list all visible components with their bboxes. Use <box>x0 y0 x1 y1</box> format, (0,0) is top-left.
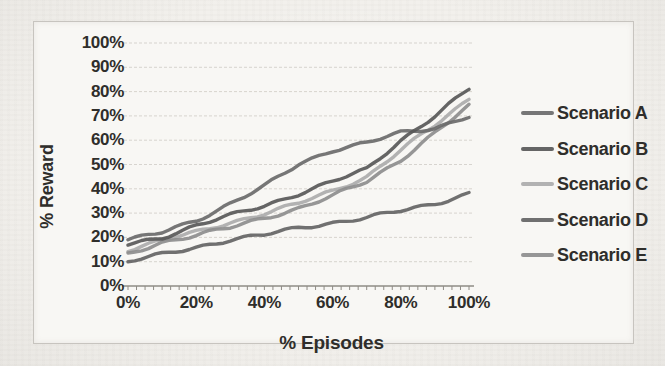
legend-entry-scenario-d: Scenario D <box>521 209 648 231</box>
x-tick-label-20%: 20% <box>161 293 231 313</box>
legend-entry-scenario-b: Scenario B <box>521 138 648 160</box>
x-tick-label-40%: 40% <box>229 293 299 313</box>
y-tick-label-80%: 80% <box>62 83 124 101</box>
series-line-scenario-b <box>128 89 469 245</box>
x-tick-label-60%: 60% <box>298 293 368 313</box>
legend-line-swatch-icon <box>521 111 554 115</box>
chart-frame: % Reward % Episodes 100%90%80%70%60%50%4… <box>33 21 634 344</box>
y-tick-label-100%: 100% <box>62 34 124 52</box>
legend-label: Scenario D <box>557 210 648 231</box>
x-tick-label-80%: 80% <box>366 293 436 313</box>
legend-entry-scenario-c: Scenario C <box>521 173 648 195</box>
y-tick-label-50%: 50% <box>62 156 124 174</box>
legend-entry-scenario-a: Scenario A <box>521 102 647 124</box>
y-tick-label-30%: 30% <box>62 204 124 222</box>
y-tick-label-70%: 70% <box>62 107 124 125</box>
legend-entry-scenario-e: Scenario E <box>521 244 647 266</box>
legend-line-swatch-icon <box>521 182 554 186</box>
y-tick-label-90%: 90% <box>62 58 124 76</box>
y-tick-label-20%: 20% <box>62 228 124 246</box>
y-axis-title: % Reward <box>37 132 58 242</box>
x-axis-title: % Episodes <box>264 332 399 354</box>
legend-label: Scenario C <box>557 174 648 195</box>
legend-line-swatch-icon <box>521 253 554 257</box>
legend-label: Scenario E <box>557 245 647 266</box>
legend-line-swatch-icon <box>521 218 554 222</box>
y-tick-label-60%: 60% <box>62 131 124 149</box>
legend-line-swatch-icon <box>521 147 554 151</box>
y-tick-label-40%: 40% <box>62 180 124 198</box>
y-tick-label-10%: 10% <box>62 253 124 271</box>
x-tick-label-0%: 0% <box>93 293 163 313</box>
legend-label: Scenario A <box>557 103 647 124</box>
x-tick-label-100%: 100% <box>434 293 504 313</box>
legend-label: Scenario B <box>557 139 648 160</box>
